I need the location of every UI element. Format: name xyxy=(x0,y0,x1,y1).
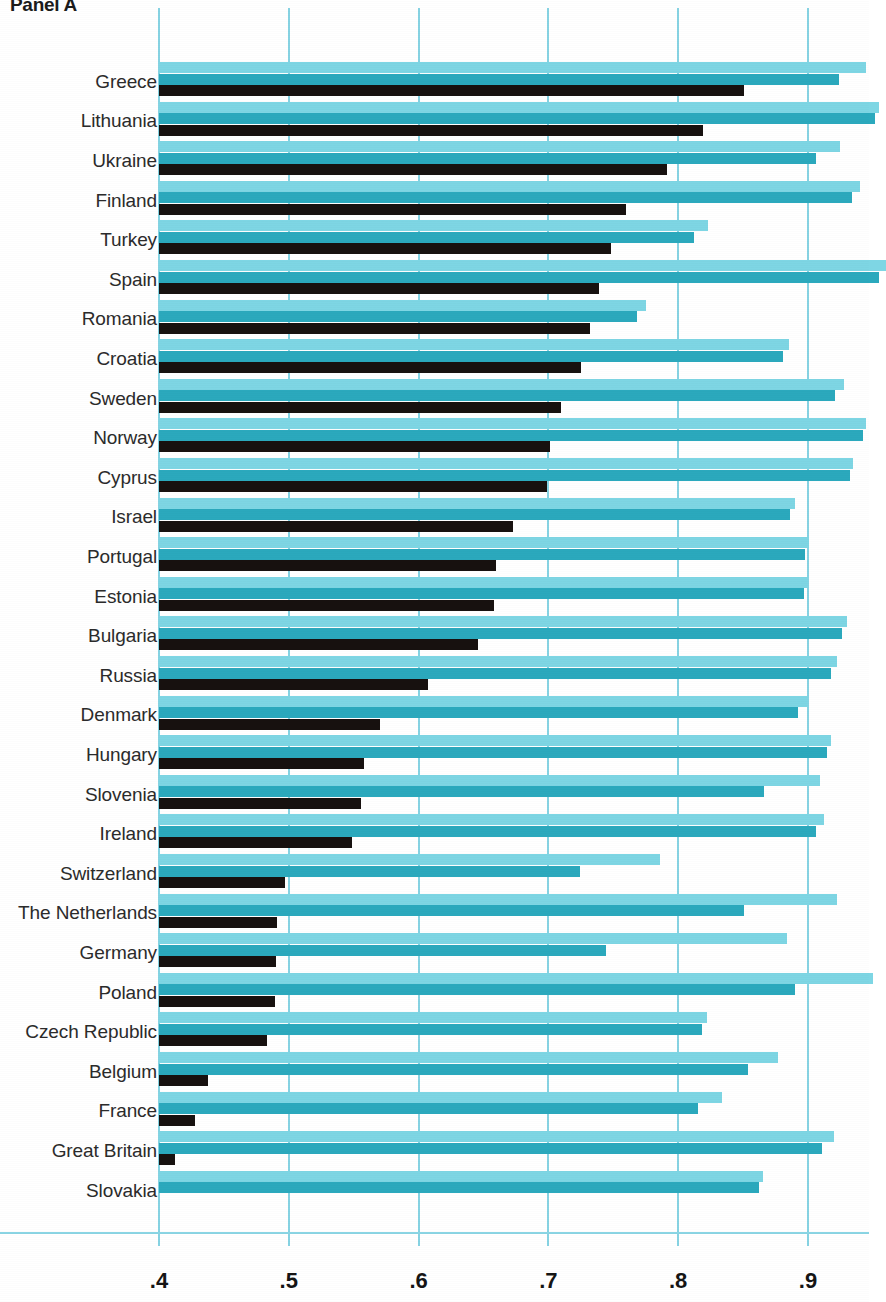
bar-black xyxy=(159,837,352,848)
category-label: Belgium xyxy=(89,1061,157,1083)
bar-light xyxy=(159,418,866,429)
bar-black xyxy=(159,481,547,492)
category-label: France xyxy=(98,1100,157,1122)
category-label: Estonia xyxy=(94,586,157,608)
chart-row: Spain xyxy=(0,260,869,300)
bar-teal xyxy=(159,1103,698,1114)
bar-light xyxy=(159,696,808,707)
bar-light xyxy=(159,656,837,667)
x-tick-label: .4 xyxy=(150,1268,168,1294)
chart-row: Greece xyxy=(0,62,869,102)
chart-row: Denmark xyxy=(0,696,869,736)
bar-light xyxy=(159,894,837,905)
bar-black xyxy=(159,600,494,611)
chart-row: Romania xyxy=(0,300,869,340)
bar-light xyxy=(159,339,789,350)
category-label: Germany xyxy=(80,942,157,964)
category-label: Great Britain xyxy=(52,1140,157,1162)
bar-teal xyxy=(159,153,816,164)
bar-teal xyxy=(159,351,783,362)
chart-row: The Netherlands xyxy=(0,894,869,934)
x-axis-line xyxy=(0,1232,869,1234)
chart-row: Switzerland xyxy=(0,854,869,894)
category-label: Slovakia xyxy=(86,1180,157,1202)
bar-black xyxy=(159,1075,208,1086)
bar-light xyxy=(159,181,860,192)
bar-black xyxy=(159,204,626,215)
chart-row: Slovenia xyxy=(0,775,869,815)
bar-black xyxy=(159,1115,195,1126)
x-tick-label: .7 xyxy=(539,1268,557,1294)
bar-teal xyxy=(159,905,744,916)
bar-light xyxy=(159,260,886,271)
bar-black xyxy=(159,877,285,888)
chart-row: Sweden xyxy=(0,379,869,419)
bar-light xyxy=(159,458,853,469)
bar-black xyxy=(159,362,581,373)
bar-black xyxy=(159,798,361,809)
bar-teal xyxy=(159,984,795,995)
bar-black xyxy=(159,639,478,650)
bar-black xyxy=(159,1154,175,1165)
bar-black xyxy=(159,243,611,254)
bar-teal xyxy=(159,390,835,401)
bar-black xyxy=(159,323,590,334)
bar-black xyxy=(159,917,277,928)
chart-row: Turkey xyxy=(0,220,869,260)
x-tick-label: .9 xyxy=(799,1268,817,1294)
category-label: Bulgaria xyxy=(88,625,157,647)
bar-black xyxy=(159,85,744,96)
category-label: Lithuania xyxy=(81,110,157,132)
bar-teal xyxy=(159,232,694,243)
bar-teal xyxy=(159,707,798,718)
bar-black xyxy=(159,164,667,175)
chart-row: Russia xyxy=(0,656,869,696)
chart-row: Croatia xyxy=(0,339,869,379)
bar-teal xyxy=(159,786,764,797)
bar-light xyxy=(159,220,708,231)
bar-teal xyxy=(159,430,863,441)
bar-black xyxy=(159,956,276,967)
bar-light xyxy=(159,300,646,311)
bar-light xyxy=(159,814,824,825)
chart-row: Bulgaria xyxy=(0,616,869,656)
x-tick-label: .8 xyxy=(669,1268,687,1294)
bar-light xyxy=(159,537,809,548)
bar-light xyxy=(159,1012,707,1023)
bar-teal xyxy=(159,509,790,520)
chart-row: Great Britain xyxy=(0,1131,869,1171)
category-label: The Netherlands xyxy=(18,902,157,924)
chart-row: Slovakia xyxy=(0,1171,869,1211)
bar-black xyxy=(159,758,364,769)
chart-row: Norway xyxy=(0,418,869,458)
bar-light xyxy=(159,616,847,627)
chart-row: Belgium xyxy=(0,1052,869,1092)
bar-black xyxy=(159,521,513,532)
chart-row: Czech Republic xyxy=(0,1012,869,1052)
bar-teal xyxy=(159,74,839,85)
bar-black xyxy=(159,996,275,1007)
bar-teal xyxy=(159,1064,748,1075)
bar-light xyxy=(159,1092,722,1103)
bar-teal xyxy=(159,826,816,837)
category-label: Turkey xyxy=(100,229,157,251)
chart-row: France xyxy=(0,1092,869,1132)
category-label: Denmark xyxy=(81,704,157,726)
bar-teal xyxy=(159,549,805,560)
x-tick-label: .5 xyxy=(280,1268,298,1294)
bar-light xyxy=(159,498,795,509)
bar-light xyxy=(159,141,840,152)
bar-teal xyxy=(159,113,875,124)
bar-light xyxy=(159,1052,778,1063)
x-tick-label: .6 xyxy=(409,1268,427,1294)
bar-teal xyxy=(159,747,827,758)
chart-row: Israel xyxy=(0,498,869,538)
bar-light xyxy=(159,102,879,113)
bar-black xyxy=(159,402,561,413)
bar-black xyxy=(159,1035,267,1046)
category-label: Hungary xyxy=(86,744,157,766)
bar-teal xyxy=(159,272,879,283)
category-label: Israel xyxy=(111,506,157,528)
bar-teal xyxy=(159,470,850,481)
